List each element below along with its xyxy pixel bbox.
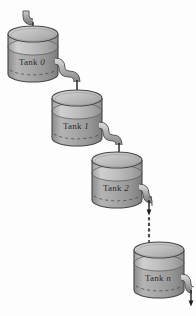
tank-1[interactable] [52,90,102,146]
tank-2[interactable] [92,152,142,208]
tank-n[interactable] [134,242,184,298]
tank-cascade-diagram [0,0,196,316]
diagram-canvas: Tank 0 Tank 1 Tank 2 Tank n [0,0,196,316]
tank-0[interactable] [8,26,58,82]
